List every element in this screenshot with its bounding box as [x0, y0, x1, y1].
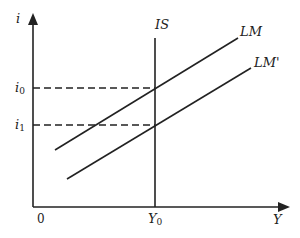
lm-prime-label: LM' [253, 55, 280, 70]
is-label: IS [154, 17, 169, 32]
origin-label: 0 [37, 212, 45, 226]
y-axis-label: i [16, 11, 20, 26]
lm-prime-curve [67, 68, 251, 179]
i1-label: i1 [15, 117, 25, 133]
lm-label: LM [239, 24, 263, 39]
y-axis-arrow-icon [28, 13, 38, 25]
y0-label: Y0 [148, 211, 163, 227]
i0-label: i0 [15, 80, 25, 96]
is-lm-diagram: i Y 0 IS LM LM' i0 i1 Y0 [0, 0, 300, 238]
lm-curve [55, 38, 238, 150]
x-axis-arrow-icon [278, 202, 290, 212]
diagram-canvas: i Y 0 IS LM LM' i0 i1 Y0 [0, 0, 300, 238]
x-axis-label: Y [273, 212, 283, 227]
